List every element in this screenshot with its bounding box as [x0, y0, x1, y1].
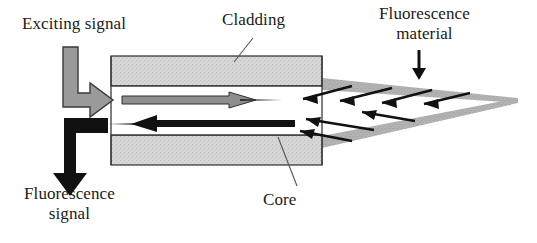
fluorescence-material-wedge [322, 78, 518, 148]
fluorescence-material-pointer-arrow [412, 50, 426, 80]
label-core: Core [263, 190, 296, 210]
wedge-ray-5 [362, 110, 415, 121]
exciting-signal-elbow-arrow-shape [63, 47, 113, 117]
label-exciting-signal: Exciting signal [22, 14, 126, 34]
label-fluorescence-material: Fluorescence material [379, 4, 470, 44]
figure-canvas: Exciting signal Cladding Fluorescence ma… [0, 0, 537, 243]
core-fill [111, 86, 322, 135]
label-cladding: Cladding [222, 10, 285, 30]
cladding-bottom-band [111, 135, 322, 165]
cladding-top-band [111, 56, 322, 86]
label-fluorescence-signal: Fluorescence signal [24, 184, 115, 224]
exciting-signal-arrow [63, 47, 113, 117]
